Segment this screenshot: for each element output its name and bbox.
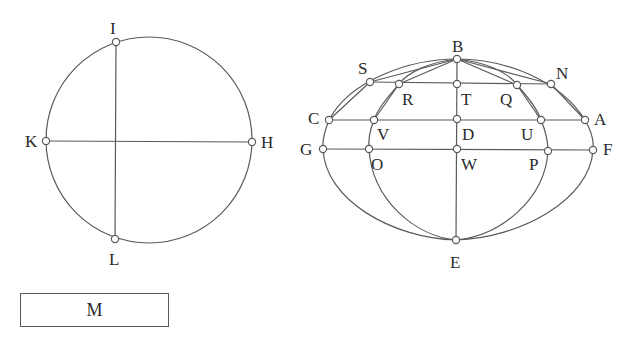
point-label-P: P	[529, 155, 538, 174]
point-label-H: H	[261, 133, 273, 152]
point-label-O: O	[371, 155, 383, 174]
point-S-marker	[366, 78, 373, 85]
point-label-T: T	[461, 90, 472, 109]
point-P-marker	[544, 147, 551, 154]
chord-BN	[457, 59, 551, 84]
point-label-F: F	[603, 140, 612, 159]
point-U-marker	[537, 116, 544, 123]
point-label-C: C	[308, 109, 319, 128]
point-label-G: G	[300, 140, 312, 159]
point-label-D: D	[462, 125, 474, 144]
point-label-U: U	[521, 125, 533, 144]
chord-KH	[46, 141, 252, 142]
point-E-marker	[452, 236, 459, 243]
label-box-M: M	[20, 293, 169, 327]
chord-NA	[551, 84, 585, 120]
point-A-marker	[581, 116, 588, 123]
point-L-marker	[111, 235, 118, 242]
point-O-marker	[365, 145, 372, 152]
point-N-marker	[547, 80, 554, 87]
left-circle-figure	[46, 37, 252, 243]
point-R-marker	[395, 80, 402, 87]
point-label-A: A	[594, 110, 607, 129]
point-F-marker	[589, 146, 596, 153]
point-B-marker	[453, 55, 460, 62]
point-I-marker	[112, 38, 119, 45]
point-label-Q: Q	[500, 90, 512, 109]
point-H-marker	[248, 138, 255, 145]
box-label: M	[86, 300, 102, 321]
geometric-diagram: IKHL BSRTQNCVDUAGOWPFE	[0, 0, 626, 338]
point-label-E: E	[450, 253, 460, 272]
point-label-I: I	[110, 19, 116, 38]
point-label-V: V	[377, 125, 390, 144]
point-K-marker	[42, 137, 49, 144]
point-C-marker	[325, 116, 332, 123]
point-W-marker	[453, 145, 460, 152]
chord-BS	[370, 59, 457, 82]
chord-RV	[374, 84, 399, 120]
chord-SC	[329, 82, 370, 120]
point-label-S: S	[358, 59, 367, 78]
point-label-K: K	[25, 132, 38, 151]
point-V-marker	[370, 116, 377, 123]
point-label-R: R	[402, 90, 414, 109]
point-G-marker	[319, 145, 326, 152]
point-D-marker	[453, 115, 460, 122]
point-label-N: N	[556, 64, 568, 83]
point-label-W: W	[461, 155, 478, 174]
left-points: IKHL	[25, 19, 273, 269]
chord-IL	[115, 42, 116, 239]
chord-QU	[517, 85, 541, 120]
circle-IKHL	[46, 37, 252, 243]
point-T-marker	[453, 80, 460, 87]
point-label-B: B	[452, 37, 463, 56]
point-label-L: L	[109, 250, 119, 269]
point-Q-marker	[513, 81, 520, 88]
